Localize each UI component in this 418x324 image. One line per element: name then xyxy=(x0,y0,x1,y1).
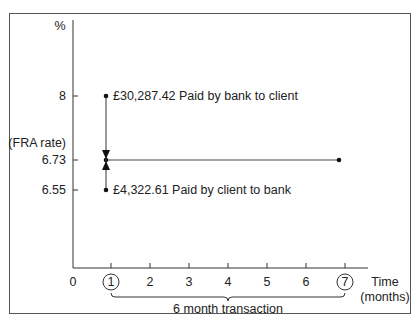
arrow-down-icon xyxy=(102,150,110,159)
x-tick-label-2: 2 xyxy=(147,275,154,289)
x-tick-label-7: 7 xyxy=(342,275,349,289)
x-ticks xyxy=(111,263,345,268)
point-6.55 xyxy=(104,188,109,193)
x-axis-label-line2: (months) xyxy=(360,290,409,304)
x-tick-label-0: 0 xyxy=(70,275,77,289)
x-tick-label-3: 3 xyxy=(186,275,193,289)
fra-chart: % 8 (FRA rate) 6.73 6.55 0 1 2 3 4 5 6 7… xyxy=(0,0,418,324)
x-tick-label-1: 1 xyxy=(108,275,115,289)
fra-end-point xyxy=(337,158,342,163)
annotation-bank-to-client: £30,287.42 Paid by bank to client xyxy=(113,89,298,103)
x-tick-label-6: 6 xyxy=(303,275,310,289)
brace-label: 6 month transaction xyxy=(173,302,283,316)
y-tick-label-6.73: 6.73 xyxy=(42,153,66,167)
x-tick-label-4: 4 xyxy=(225,275,232,289)
y-tick-label-8: 8 xyxy=(59,89,66,103)
y-tick-sublabel-fra: (FRA rate) xyxy=(8,136,66,150)
y-tick-label-6.55: 6.55 xyxy=(42,183,66,197)
y-axis-label: % xyxy=(54,19,65,33)
transaction-brace xyxy=(111,293,345,301)
annotation-client-to-bank: £4,322.61 Paid by client to bank xyxy=(113,183,292,197)
arrow-up-icon xyxy=(102,161,110,170)
point-8 xyxy=(104,94,109,99)
x-axis-label-line1: Time xyxy=(371,275,398,289)
x-tick-label-5: 5 xyxy=(264,275,271,289)
